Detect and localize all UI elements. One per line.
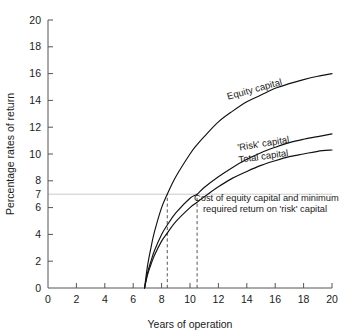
y-tick-label: 2 xyxy=(35,255,41,267)
curve-2 xyxy=(145,150,332,288)
y-tick-label: 10 xyxy=(29,148,41,160)
curve-0 xyxy=(145,74,332,288)
x-tick-label: 20 xyxy=(326,293,338,305)
y-tick-label: 6 xyxy=(35,201,41,213)
data-curves xyxy=(145,74,332,288)
y-tick-label: 0 xyxy=(35,282,41,294)
x-axis-tick-labels: 02468101214161820 xyxy=(45,293,338,305)
x-tick-label: 16 xyxy=(269,293,281,305)
x-tick-label: 8 xyxy=(159,293,165,305)
x-tick-label: 18 xyxy=(298,293,310,305)
annotation-line-1: Cost of equity capital and minimum xyxy=(194,193,339,203)
x-tick-label: 6 xyxy=(130,293,136,305)
y-tick-label: 8 xyxy=(35,174,41,186)
x-tick-label: 4 xyxy=(102,293,108,305)
x-axis-ticks xyxy=(76,283,332,288)
x-tick-label: 2 xyxy=(73,293,79,305)
curve-labels: Equity capital'Risk' capitalTotal capita… xyxy=(226,76,290,165)
chart-figure: 024681012141618207 02468101214161820 Equ… xyxy=(0,0,364,336)
annotation-line-2: required return on 'risk' capital xyxy=(203,204,327,214)
y-axis-title: Percentage rates of return xyxy=(4,93,16,215)
x-tick-label: 10 xyxy=(184,293,196,305)
x-tick-label: 14 xyxy=(241,293,253,305)
y-tick-label: 20 xyxy=(29,14,41,26)
y-tick-label: 18 xyxy=(29,40,41,52)
y-tick-label: 16 xyxy=(29,67,41,79)
y-axis-tick-labels: 024681012141618207 xyxy=(29,14,41,294)
y-tick-label: 12 xyxy=(29,121,41,133)
reference-dashed-lines xyxy=(167,194,197,288)
x-tick-label: 0 xyxy=(45,293,51,305)
y-tick-label-7: 7 xyxy=(35,188,41,200)
y-tick-label: 4 xyxy=(35,228,41,240)
x-axis-title: Years of operation xyxy=(148,318,233,330)
chart-canvas: 024681012141618207 02468101214161820 Equ… xyxy=(0,0,364,336)
y-tick-label: 14 xyxy=(29,94,41,106)
x-tick-label: 12 xyxy=(213,293,225,305)
y-axis-ticks xyxy=(48,20,53,261)
